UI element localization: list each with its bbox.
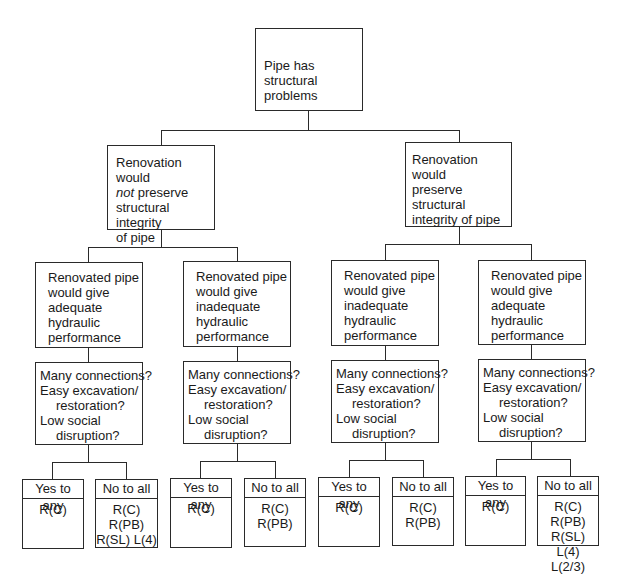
question-line: Many connections?: [188, 367, 300, 382]
question-line: Easy excavation/: [188, 382, 300, 397]
connector: [275, 461, 276, 478]
connector: [200, 461, 201, 478]
connector: [161, 130, 460, 131]
leaf-result: R(C) R(PB) R(SL) L(4): [96, 499, 157, 547]
node-label: Renovated pipe would give adequate hydra…: [491, 268, 582, 343]
node-label: Renovated pipe would give adequate hydra…: [48, 270, 139, 345]
question-line: restoration?: [336, 396, 448, 411]
leaf-header: No to all: [538, 477, 598, 496]
leaf-header: No to all: [96, 480, 157, 499]
connector: [531, 244, 532, 260]
leaf-result: R(C): [466, 496, 525, 514]
leaf-yes-to-any: Yes to any R(C): [318, 477, 380, 547]
leaf-header: Yes to any: [23, 480, 83, 499]
connector: [161, 230, 162, 247]
node-label: Renovation would not preserve structural…: [116, 155, 214, 245]
connector: [161, 130, 162, 145]
connector: [385, 244, 386, 260]
connector: [52, 462, 127, 463]
connector: [237, 247, 238, 262]
node-not-preserve-integrity: Renovation would not preserve structural…: [107, 145, 215, 230]
question-text: Many connections? Easy excavation/ resto…: [483, 365, 595, 440]
question-line: Low social: [336, 411, 448, 426]
question-line: disruption?: [483, 425, 595, 440]
node-inadequate-hydraulic: Renovated pipe would give inadequate hyd…: [331, 260, 439, 346]
leaf-header: No to all: [393, 478, 453, 497]
question-line: Many connections?: [483, 365, 595, 380]
connector: [126, 462, 127, 479]
question-line: restoration?: [188, 397, 300, 412]
connector: [349, 460, 424, 461]
connector: [423, 460, 424, 477]
connector: [200, 461, 276, 462]
leaf-header: Yes to any: [466, 477, 525, 496]
connector: [570, 459, 571, 476]
node-label: Renovation would preserve structural int…: [412, 152, 511, 227]
connector: [88, 247, 238, 248]
node-adequate-hydraulic: Renovated pipe would give adequate hydra…: [35, 262, 143, 348]
connector: [496, 459, 571, 460]
question-line: Many connections?: [336, 366, 448, 381]
leaf-header: Yes to any: [171, 479, 231, 498]
connector: [385, 443, 386, 460]
question-line: restoration?: [483, 395, 595, 410]
leaf-no-to-all: No to all R(C) R(PB) R(SL) L(4) L(2/3): [537, 476, 599, 546]
question-text: Many connections? Easy excavation/ resto…: [40, 368, 152, 443]
label-emphasis: not: [116, 185, 134, 200]
connector: [349, 460, 350, 477]
connector: [459, 227, 460, 244]
node-label: Renovated pipe would give inadequate hyd…: [196, 269, 287, 344]
node-inadequate-hydraulic: Renovated pipe would give inadequate hyd…: [183, 261, 291, 347]
root-node: Pipe has structural problems: [255, 28, 363, 111]
connector: [237, 347, 238, 361]
question-node: Many connections? Easy excavation/ resto…: [35, 362, 143, 445]
leaf-result: R(C) R(PB) R(SL) L(4) L(2/3): [538, 496, 598, 574]
connector: [52, 462, 53, 479]
question-node: Many connections? Easy excavation/ resto…: [331, 360, 439, 443]
leaf-yes-to-any: Yes to any R(C): [170, 478, 232, 548]
leaf-result: R(C): [23, 499, 83, 517]
leaf-result: R(C) R(PB): [393, 497, 453, 530]
leaf-no-to-all: No to all R(C) R(PB): [244, 478, 306, 547]
connector: [496, 459, 497, 476]
node-preserve-integrity: Renovation would preserve structural int…: [405, 142, 512, 227]
question-node: Many connections? Easy excavation/ resto…: [478, 359, 586, 442]
question-line: Low social: [483, 410, 595, 425]
question-line: Easy excavation/: [483, 380, 595, 395]
leaf-result: R(C): [319, 497, 379, 515]
leaf-header: Yes to any: [319, 478, 379, 497]
question-line: Low social: [40, 413, 152, 428]
connector: [385, 346, 386, 360]
connector: [531, 442, 532, 459]
label-part: Renovation would: [116, 155, 182, 185]
leaf-result: R(C) R(PB): [245, 498, 305, 531]
leaf-no-to-all: No to all R(C) R(PB) R(SL) L(4): [95, 479, 158, 548]
question-line: Easy excavation/: [40, 383, 152, 398]
connector: [385, 244, 532, 245]
root-label: Pipe has structural problems: [264, 58, 362, 103]
question-line: Easy excavation/: [336, 381, 448, 396]
connector: [88, 348, 89, 362]
question-node: Many connections? Easy excavation/ resto…: [183, 361, 291, 444]
question-text: Many connections? Easy excavation/ resto…: [188, 367, 300, 442]
connector: [88, 247, 89, 262]
question-line: restoration?: [40, 398, 152, 413]
question-text: Many connections? Easy excavation/ resto…: [336, 366, 448, 441]
connector: [88, 445, 89, 462]
node-adequate-hydraulic: Renovated pipe would give adequate hydra…: [478, 260, 586, 345]
connector: [237, 444, 238, 461]
connector: [308, 111, 309, 130]
question-line: Many connections?: [40, 368, 152, 383]
question-line: Low social: [188, 412, 300, 427]
question-line: disruption?: [40, 428, 152, 443]
leaf-yes-to-any: Yes to any R(C): [465, 476, 526, 546]
question-line: disruption?: [188, 427, 300, 442]
question-line: disruption?: [336, 426, 448, 441]
node-label: Renovated pipe would give inadequate hyd…: [344, 268, 435, 343]
leaf-result: R(C): [171, 498, 231, 516]
leaf-no-to-all: No to all R(C) R(PB): [392, 477, 454, 546]
leaf-yes-to-any: Yes to any R(C): [22, 479, 84, 549]
leaf-header: No to all: [245, 479, 305, 498]
connector: [531, 345, 532, 359]
